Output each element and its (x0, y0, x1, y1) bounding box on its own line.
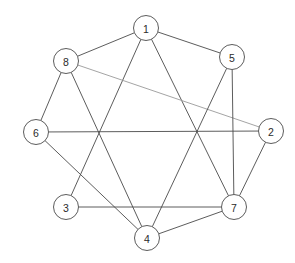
node-label-3: 3 (63, 202, 69, 214)
graph-edge-5-7 (232, 70, 234, 195)
graph-node-1[interactable]: 1 (134, 16, 159, 41)
graph-node-3[interactable]: 3 (54, 195, 79, 220)
graph-edge-1-3 (71, 39, 141, 195)
node-label-6: 6 (33, 127, 39, 139)
node-label-7: 7 (231, 202, 237, 214)
graph-edge-4-7 (159, 211, 222, 234)
graph-node-5[interactable]: 5 (220, 45, 245, 70)
nodes-layer: 12345678 (24, 16, 284, 251)
graph-edge-6-2 (49, 131, 259, 132)
node-label-2: 2 (268, 126, 274, 138)
graph-node-7[interactable]: 7 (222, 195, 247, 220)
node-label-1: 1 (143, 23, 149, 35)
graph-node-8[interactable]: 8 (54, 49, 79, 74)
graph-edge-2-7 (239, 142, 265, 196)
graph-edge-1-8 (78, 33, 135, 56)
graph-edge-1-5 (158, 32, 220, 53)
graph-edge-8-4 (71, 72, 142, 226)
node-label-4: 4 (144, 233, 150, 245)
node-label-8: 8 (63, 56, 69, 68)
graph-node-4[interactable]: 4 (135, 226, 160, 251)
node-label-5: 5 (229, 52, 235, 64)
graph-node-2[interactable]: 2 (259, 119, 284, 144)
graph-edge-8-6 (41, 73, 61, 121)
graph-svg: 12345678 (0, 0, 295, 263)
graph-node-6[interactable]: 6 (24, 120, 49, 145)
graph-edge-5-4 (152, 68, 226, 226)
graph-diagram-canvas: 12345678 (0, 0, 295, 263)
graph-edge-1-7 (152, 39, 229, 196)
